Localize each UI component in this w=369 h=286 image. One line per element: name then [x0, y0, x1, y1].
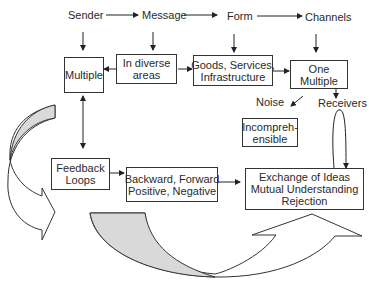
box-text-line: Positive, Negative — [128, 185, 216, 197]
label-channels: Channels — [305, 11, 351, 23]
box-text-line: One — [309, 63, 330, 75]
bottom-curved-arrow — [90, 213, 362, 277]
box-incomprehensible: Incompreh- ensible — [242, 118, 298, 147]
box-text-line: Infrastructure — [201, 71, 266, 83]
box-diverse-areas: In diverse areas — [116, 54, 177, 84]
box-multiple-text: Multiple — [65, 69, 103, 81]
box-text-line: Rejection — [282, 195, 328, 207]
box-text-line: Backward, Forward — [125, 173, 220, 185]
label-noise: Noise — [256, 96, 284, 108]
label-receivers: Receivers — [318, 97, 367, 109]
box-exchange: Exchange of Ideas Mutual Understanding R… — [245, 168, 364, 210]
box-text-line: Multiple — [300, 75, 338, 87]
box-text-line: Incompreh- — [242, 121, 298, 133]
label-form: Form — [227, 10, 253, 22]
left-curved-arrow — [8, 105, 55, 240]
box-text-line: Feedback — [56, 162, 104, 174]
connector-arrows — [83, 15, 346, 182]
box-text-line: Goods, Services, — [191, 59, 275, 71]
box-backward-forward: Backward, Forward Positive, Negative — [126, 167, 218, 202]
box-text-line: Loops — [66, 174, 96, 186]
box-text-line: Mutual Understanding — [251, 183, 359, 195]
box-one-multiple: One Multiple — [290, 60, 348, 89]
label-sender: Sender — [68, 9, 103, 21]
box-goods-services: Goods, Services, Infrastructure — [193, 55, 273, 86]
diagram-connectors — [0, 0, 369, 286]
label-message: Message — [142, 9, 187, 21]
box-multiple: Multiple — [64, 57, 104, 93]
box-text-line: areas — [133, 69, 161, 81]
box-text-line: ensible — [253, 133, 288, 145]
box-text-line: Exchange of Ideas — [259, 171, 350, 183]
box-feedback-loops: Feedback Loops — [51, 158, 110, 190]
box-text-line: In diverse — [123, 57, 171, 69]
